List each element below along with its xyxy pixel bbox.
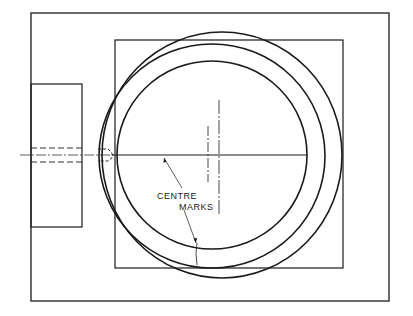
outer-frame	[31, 13, 389, 301]
label-marks: MARKS	[179, 202, 214, 212]
leader-line-lower	[184, 210, 196, 243]
arrowhead-lower	[194, 238, 198, 243]
arrowhead-upper	[164, 158, 167, 163]
centre-mark-tick	[196, 243, 197, 265]
square-plate	[115, 40, 343, 268]
left-block	[31, 84, 82, 227]
middle-ring	[99, 44, 325, 268]
label-centre: CENTRE	[157, 191, 197, 201]
drawing-canvas: CENTRE MARKS	[0, 0, 413, 316]
leader-line-upper	[164, 158, 182, 188]
